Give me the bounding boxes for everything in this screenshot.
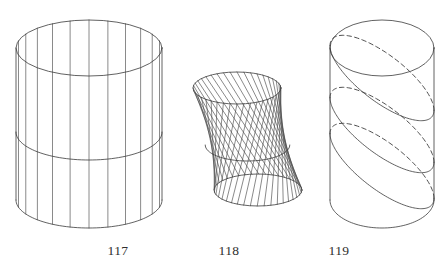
cylinder-119-section-front-3 xyxy=(330,134,434,209)
figure-plate: 117 118 119 xyxy=(0,0,444,275)
figure-119-oblique-sections xyxy=(0,0,444,275)
figure-caption-117: 117 xyxy=(88,243,148,259)
cylinder-119-section-front-2 xyxy=(330,98,434,173)
cylinder-119-section-back-2 xyxy=(330,87,434,162)
cylinder-119-group xyxy=(330,20,434,228)
caption-row: 117 118 119 xyxy=(0,243,444,265)
figure-caption-119: 119 xyxy=(309,243,369,259)
cylinder-119-oblique-sections xyxy=(330,35,434,208)
cylinder-119-section-back-3 xyxy=(330,123,434,198)
cylinder-119-bottom-rim xyxy=(330,200,434,228)
figure-caption-118: 118 xyxy=(199,243,259,259)
cylinder-119-section-back-1 xyxy=(330,35,434,110)
cylinder-119-section-front-1 xyxy=(330,46,434,121)
cylinder-119-top-rim xyxy=(330,20,434,76)
